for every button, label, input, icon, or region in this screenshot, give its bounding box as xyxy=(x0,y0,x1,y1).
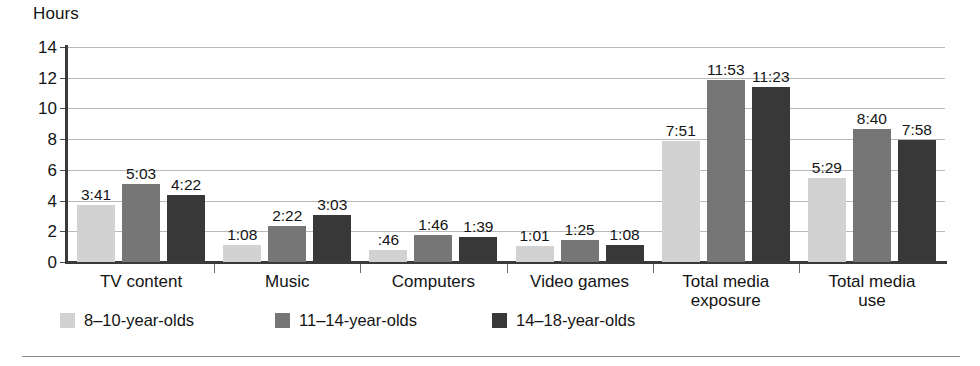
bar xyxy=(808,178,846,262)
legend-swatch-icon xyxy=(275,313,290,328)
y-tick-label: 0 xyxy=(48,254,57,271)
category-label: TV content xyxy=(68,272,214,291)
legend-item[interactable]: 14–18-year-olds xyxy=(492,311,635,330)
legend-label: 14–18-year-olds xyxy=(516,311,635,330)
bar xyxy=(268,226,306,262)
bar-chart: Hours 02468101214 3:415:034:221:082:223:… xyxy=(0,0,980,366)
legend-label: 11–14-year-olds xyxy=(299,311,417,330)
bar xyxy=(898,140,936,262)
bar xyxy=(414,235,452,262)
legend-swatch-icon xyxy=(60,313,75,328)
y-tick-label: 12 xyxy=(38,69,57,86)
bar xyxy=(459,237,497,262)
bar-value-label: :46 xyxy=(357,232,419,248)
bar xyxy=(662,141,700,262)
category-label: Computers xyxy=(360,272,506,291)
category-label: Video games xyxy=(507,272,653,291)
bar xyxy=(561,240,599,262)
category-label: Total media use xyxy=(799,272,945,310)
bar-value-label: 4:22 xyxy=(155,177,217,193)
bar-value-label: 1:08 xyxy=(211,227,273,243)
legend-swatch-icon xyxy=(492,313,507,328)
bar-value-label: 5:29 xyxy=(796,160,858,176)
bar-value-label: 3:03 xyxy=(301,197,363,213)
bar xyxy=(752,87,790,262)
bottom-rule xyxy=(22,356,960,357)
bar-value-label: 11:23 xyxy=(740,69,802,85)
bar xyxy=(369,250,407,262)
bar xyxy=(707,80,745,262)
category-label: Music xyxy=(214,272,360,291)
y-tick-label: 8 xyxy=(48,131,57,148)
bar xyxy=(167,195,205,262)
legend-label: 8–10-year-olds xyxy=(84,311,194,330)
bar xyxy=(223,245,261,262)
bar xyxy=(606,245,644,262)
bar-value-label: 7:51 xyxy=(650,123,712,139)
bar-value-label: 3:41 xyxy=(65,187,127,203)
bar-value-label: 7:58 xyxy=(886,122,948,138)
y-tick-label: 6 xyxy=(48,161,57,178)
y-axis-title: Hours xyxy=(33,4,79,24)
legend-item[interactable]: 8–10-year-olds xyxy=(60,311,194,330)
bar xyxy=(122,184,160,262)
bar-value-label: 1:39 xyxy=(447,219,509,235)
legend-item[interactable]: 11–14-year-olds xyxy=(275,311,417,330)
y-tick-label: 14 xyxy=(38,39,57,56)
y-tick-label: 2 xyxy=(48,223,57,240)
bar-value-label: 1:08 xyxy=(594,227,656,243)
bar xyxy=(77,205,115,262)
y-tick-label: 10 xyxy=(38,100,57,117)
category-label: Total media exposure xyxy=(653,272,799,310)
bar xyxy=(313,215,351,262)
bar xyxy=(853,129,891,262)
bar xyxy=(516,246,554,262)
y-tick-label: 4 xyxy=(48,192,57,209)
